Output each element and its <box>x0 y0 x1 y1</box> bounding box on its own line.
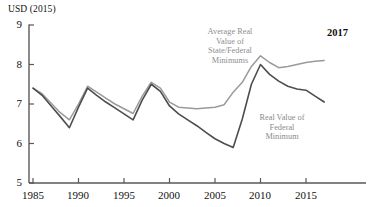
plot-area <box>0 0 372 207</box>
chart-container: USD (2015) 9 8 7 6 5 1985 1990 1995 2000… <box>0 0 372 207</box>
